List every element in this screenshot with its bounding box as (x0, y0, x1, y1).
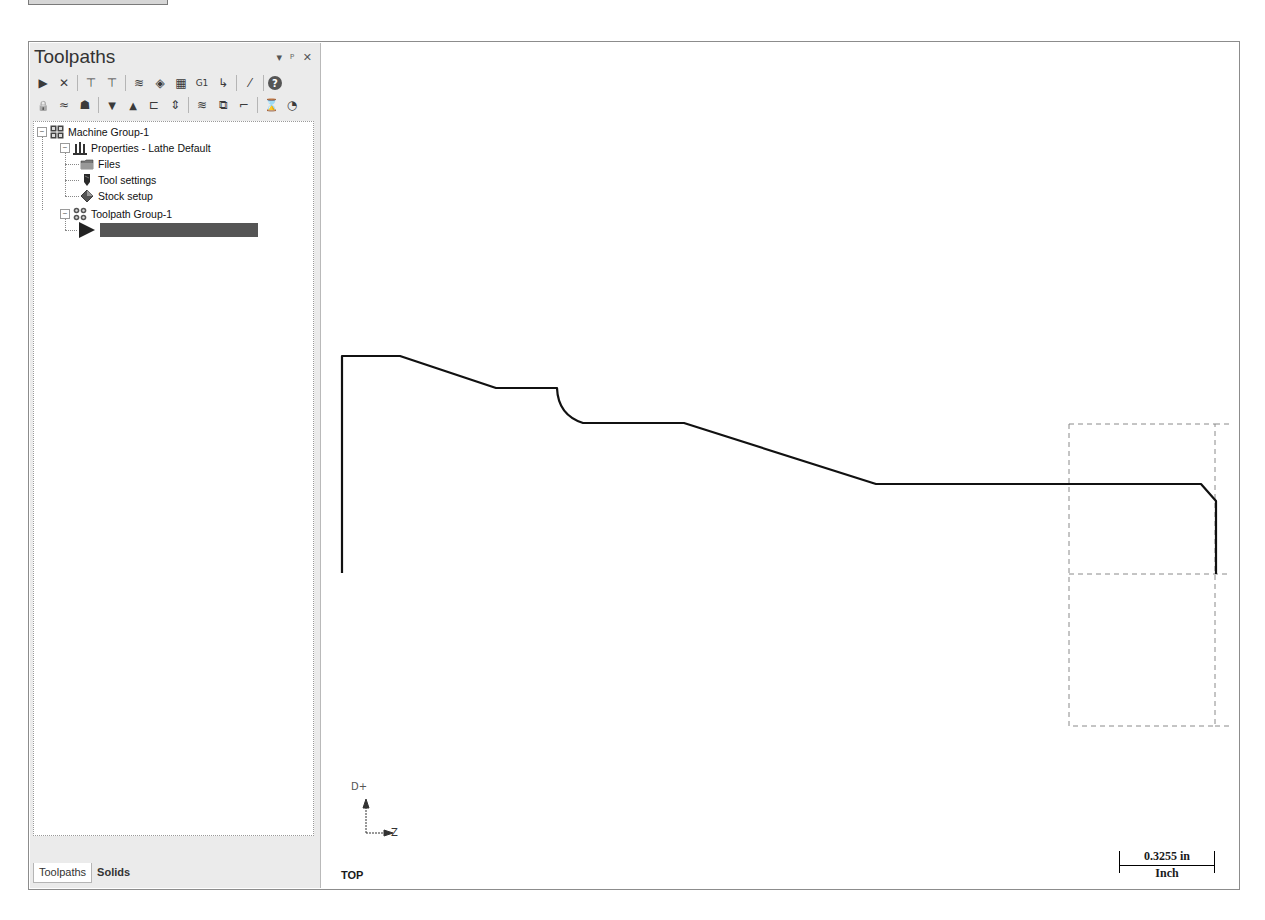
insert-arrow-row[interactable] (78, 223, 258, 237)
tree-node-label: Stock setup (98, 190, 153, 202)
toggle-posting-icon[interactable]: ☗ (76, 96, 94, 114)
scale-value: 0.3255 in (1119, 849, 1215, 866)
tree-connector (65, 152, 66, 196)
tree-connector (65, 164, 79, 165)
operations-tree: − Machine Group-1 − Properties - Lathe D… (33, 121, 314, 836)
graphics-viewport[interactable]: D+ Z TOP 0.3255 in Inch (321, 43, 1238, 888)
insert-arrow-icon[interactable]: ⊏ (145, 96, 163, 114)
tree-node-properties[interactable]: − Properties - Lathe Default (60, 141, 211, 155)
tree-node-label: Toolpath Group-1 (91, 208, 172, 220)
tree-node-toolpath-group[interactable]: − Toolpath Group-1 (60, 207, 172, 221)
regenerate-dirty-icon[interactable]: ⊤ (103, 74, 121, 92)
options-icon[interactable]: ◔ (283, 96, 301, 114)
scale-indicator: 0.3255 in Inch (1119, 849, 1215, 881)
application-frame: Toolpaths ▾ ᵖ ✕ ▶ ✕ ⊤ ⊤ ≋ ◈ ▦ G1 ↳ ⁄ ? 🔒… (28, 41, 1240, 890)
tree-node-files[interactable]: Files (80, 157, 120, 171)
tool-icon (80, 173, 94, 187)
view-name-label: TOP (341, 869, 363, 881)
move-down-icon[interactable]: ▼ (103, 96, 121, 114)
display-selected-icon[interactable]: ≋ (193, 96, 211, 114)
tree-connector (42, 136, 43, 210)
tree-node-label: Machine Group-1 (68, 126, 149, 138)
tree-connector (65, 196, 79, 197)
lathe-properties-icon (73, 141, 87, 155)
part-geometry (321, 43, 1238, 888)
pin-icon[interactable]: ᵖ (290, 51, 295, 64)
insert-arrow-icon (78, 223, 96, 237)
manager-tabs: Toolpaths Solids (33, 863, 135, 883)
part-profile (342, 356, 1216, 574)
tree-connector (65, 180, 79, 181)
toolpaths-manager-panel: Toolpaths ▾ ᵖ ✕ ▶ ✕ ⊤ ⊤ ≋ ◈ ▦ G1 ↳ ⁄ ? 🔒… (30, 43, 321, 888)
toggle-display-icon[interactable]: ≈ (55, 96, 73, 114)
tree-node-label: Properties - Lathe Default (91, 142, 211, 154)
collapse-icon[interactable]: − (60, 209, 70, 219)
collapse-icon[interactable]: − (60, 143, 70, 153)
machine-group-icon (50, 125, 64, 139)
axis-label-d: D+ (351, 781, 367, 792)
tab-toolpaths[interactable]: Toolpaths (33, 863, 92, 883)
verify-icon[interactable]: ◈ (151, 74, 169, 92)
panel-controls: ▾ ᵖ ✕ (277, 51, 312, 64)
display-all-icon[interactable]: ⧉ (214, 96, 232, 114)
regenerate-selected-icon[interactable]: ⊤ (82, 74, 100, 92)
stock-boundary (1069, 424, 1231, 726)
tree-node-stock-setup[interactable]: Stock setup (80, 189, 153, 203)
folder-icon (80, 157, 94, 171)
toolbar-row-1: ▶ ✕ ⊤ ⊤ ≋ ◈ ▦ G1 ↳ ⁄ ? (34, 73, 282, 93)
axis-indicator (363, 799, 393, 836)
tree-node-label: Tool settings (98, 174, 156, 186)
top-strip (28, 0, 168, 5)
gouge-check-icon[interactable]: ⌛ (262, 96, 280, 114)
post-selected-g1-icon[interactable]: G1 (193, 74, 211, 92)
highfeed-icon[interactable]: ⁄ (241, 74, 259, 92)
tree-node-label: Files (98, 158, 120, 170)
tree-connector (65, 230, 77, 231)
move-up-icon[interactable]: ▲ (124, 96, 142, 114)
help-icon[interactable]: ? (268, 76, 282, 90)
collapse-icon[interactable]: − (37, 127, 47, 137)
scale-unit: Inch (1119, 866, 1215, 881)
backplot-icon[interactable]: ≋ (130, 74, 148, 92)
axis-label-z: Z (391, 827, 398, 838)
deselect-operations-icon[interactable]: ✕ (55, 74, 73, 92)
stock-model-icon[interactable]: ⌐ (235, 96, 253, 114)
toolpath-group-icon (73, 207, 87, 221)
simulate-icon[interactable]: ▦ (172, 74, 190, 92)
selected-insert-position[interactable] (100, 223, 258, 237)
scroll-to-insert-icon[interactable]: ⇕ (166, 96, 184, 114)
tab-solids[interactable]: Solids (92, 863, 135, 883)
select-all-operations-icon[interactable]: ▶ (34, 74, 52, 92)
toolpath-output-icon[interactable]: ↳ (214, 74, 232, 92)
panel-dropdown-icon[interactable]: ▾ (277, 51, 283, 64)
stock-diamond-icon (80, 189, 94, 203)
tree-node-tool-settings[interactable]: Tool settings (80, 173, 156, 187)
tree-node-machine-group[interactable]: − Machine Group-1 (37, 125, 149, 139)
lock-icon[interactable]: 🔒 (34, 96, 52, 114)
panel-title: Toolpaths (34, 46, 115, 68)
toolbar-row-2: 🔒 ≈ ☗ ▼ ▲ ⊏ ⇕ ≋ ⧉ ⌐ ⌛ ◔ (34, 95, 301, 115)
close-icon[interactable]: ✕ (303, 51, 312, 64)
